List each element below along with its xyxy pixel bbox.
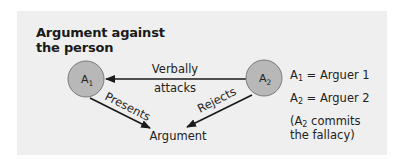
node-a2: A2 bbox=[246, 60, 282, 96]
verbally-label: Verbally bbox=[152, 62, 199, 76]
rejects-label: Rejects bbox=[195, 84, 238, 115]
legend-a2: A2 = Arguer 2 bbox=[290, 91, 380, 105]
legend-a1: A1 = Arguer 1 bbox=[290, 68, 380, 82]
attacks-label: attacks bbox=[154, 81, 196, 95]
node-a1: A1 bbox=[68, 61, 104, 97]
argument-node-label: Argument bbox=[149, 129, 207, 143]
legend: A1 = Arguer 1 A2 = Arguer 2 (A2 commits … bbox=[290, 68, 380, 151]
legend-note: (A2 commits the fallacy) bbox=[290, 114, 380, 142]
presents-label: Presents bbox=[103, 89, 153, 124]
